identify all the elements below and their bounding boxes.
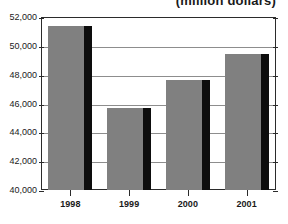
y-axis-label: 48,000 <box>0 70 37 80</box>
y-axis-label: 42,000 <box>0 156 37 166</box>
y-axis-tick <box>39 191 44 192</box>
bar-shadow <box>202 80 210 190</box>
y-axis-tick <box>39 105 44 106</box>
x-axis-tick <box>129 190 130 196</box>
bar <box>48 26 92 190</box>
y-axis-label: 46,000 <box>0 99 37 109</box>
y-axis-label: 44,000 <box>0 127 37 137</box>
y-axis-tick <box>273 76 278 77</box>
y-axis-tick <box>39 47 44 48</box>
x-axis-tick <box>70 190 71 196</box>
y-axis-tick <box>273 105 278 106</box>
x-axis-label: 2001 <box>217 199 277 209</box>
bar <box>107 108 151 190</box>
bar <box>225 54 269 190</box>
y-axis-label: 52,000 <box>0 12 37 22</box>
chart-title: (million dollars) <box>0 0 276 8</box>
y-axis-tick <box>273 18 278 19</box>
x-axis-tick <box>247 190 248 196</box>
x-axis-label: 2000 <box>158 199 218 209</box>
bar-shadow <box>84 26 92 190</box>
x-axis-tick <box>188 190 189 196</box>
x-axis-label: 1999 <box>99 199 159 209</box>
y-axis-label: 40,000 <box>0 185 37 195</box>
y-axis-tick <box>273 47 278 48</box>
y-axis-label: 50,000 <box>0 41 37 51</box>
bar-shadow <box>261 54 269 190</box>
y-axis-tick <box>273 162 278 163</box>
y-axis-tick <box>39 18 44 19</box>
y-axis-tick <box>273 191 278 192</box>
y-axis-tick <box>273 133 278 134</box>
bar <box>166 80 210 190</box>
x-axis-label: 1998 <box>40 199 100 209</box>
bar-chart-figure: (million dollars) 52,00050,00048,00046,0… <box>0 0 288 224</box>
y-axis-tick <box>39 76 44 77</box>
y-axis-tick <box>39 133 44 134</box>
y-axis-tick <box>39 162 44 163</box>
bar-shadow <box>143 108 151 190</box>
